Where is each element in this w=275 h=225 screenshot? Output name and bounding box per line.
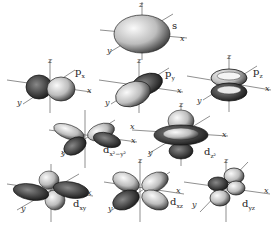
axis-y-label: y bbox=[17, 98, 22, 107]
orbital-px: px z x y bbox=[5, 58, 93, 113]
orbital-label-dz2: dz² bbox=[204, 146, 216, 159]
axis-x-label: x bbox=[222, 130, 227, 139]
axis-z-label: z bbox=[48, 56, 52, 65]
orbital-label-dx2-y2: dx²−y² bbox=[103, 144, 126, 157]
axis-y-label: y bbox=[107, 46, 112, 55]
axis-y-label: y bbox=[61, 148, 66, 157]
axis-y-label: y bbox=[192, 200, 197, 209]
axis-x-label: x bbox=[176, 186, 181, 195]
axis-z-label: z bbox=[179, 100, 183, 109]
label-sub: y bbox=[171, 74, 174, 81]
dxy-orbital-shape bbox=[3, 164, 95, 222]
axis-x-label: x bbox=[87, 188, 92, 197]
axis-x-label-left: x bbox=[130, 122, 135, 131]
axis-y-label: y bbox=[105, 98, 110, 107]
axis-y-label: y bbox=[148, 148, 153, 157]
orbital-label-dyz: dyz bbox=[242, 198, 255, 211]
label-main: s bbox=[172, 20, 177, 31]
orbital-label-py: py bbox=[165, 68, 175, 81]
label-sub: z bbox=[259, 72, 262, 79]
axis-x-label: x bbox=[180, 34, 185, 43]
orbital-label-s: s bbox=[172, 20, 177, 31]
axis-z-label: z bbox=[224, 156, 228, 165]
axis-y-label: y bbox=[108, 204, 113, 213]
label-sub: xy bbox=[79, 204, 86, 211]
axis-z-label: z bbox=[138, 156, 142, 165]
axis-x-label: x bbox=[264, 186, 269, 195]
orbital-dxy: dxy x y bbox=[3, 164, 95, 222]
axis-z-label: z bbox=[139, 0, 143, 9]
label-sub: x bbox=[81, 72, 84, 79]
axis-x-label: x bbox=[177, 86, 182, 95]
axis-z-label: z bbox=[227, 52, 231, 61]
orbital-label-pz: pz bbox=[253, 66, 263, 79]
axis-y-label: y bbox=[21, 204, 26, 213]
orbital-label-dxy: dxy bbox=[73, 198, 86, 211]
orbital-dz2: dz² z x x y bbox=[130, 104, 230, 166]
axis-z-label: z bbox=[137, 56, 141, 65]
axis-x-label: x bbox=[87, 86, 92, 95]
orbital-label-dxz: dxz bbox=[170, 196, 183, 209]
orbital-dyz: dyz z x y bbox=[182, 160, 272, 222]
dyz-orbital-shape bbox=[182, 160, 272, 222]
orbital-label-px: px bbox=[75, 66, 85, 79]
label-sub: z² bbox=[210, 152, 216, 159]
label-sub: yz bbox=[248, 204, 255, 211]
label-sub: x²−y² bbox=[109, 150, 126, 157]
orbital-s: s z x y bbox=[95, 2, 190, 62]
orbital-dxz: dxz z x y bbox=[98, 160, 186, 222]
axis-x-label: x bbox=[265, 84, 270, 93]
